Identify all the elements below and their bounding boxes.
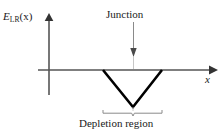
figure-canvas: [0, 0, 224, 135]
depletion-region-label: Depletion region: [79, 118, 153, 129]
field-curve-v: [103, 70, 162, 107]
y-axis-label: ELR(x): [3, 11, 32, 23]
x-axis-label: x: [205, 74, 210, 85]
electric-field-junction-figure: ELR(x) x Junction Depletion region: [0, 0, 224, 135]
x-axis-arrowhead: [209, 66, 218, 75]
y-axis-label-subscript: LR: [10, 15, 20, 24]
junction-arrowhead: [130, 48, 136, 57]
y-axis-arrowhead: [45, 13, 54, 21]
y-axis-label-main: E: [3, 10, 10, 22]
junction-label: Junction: [106, 9, 143, 20]
y-axis-label-arg: (x): [20, 10, 33, 22]
depletion-region-brace: [103, 110, 162, 116]
